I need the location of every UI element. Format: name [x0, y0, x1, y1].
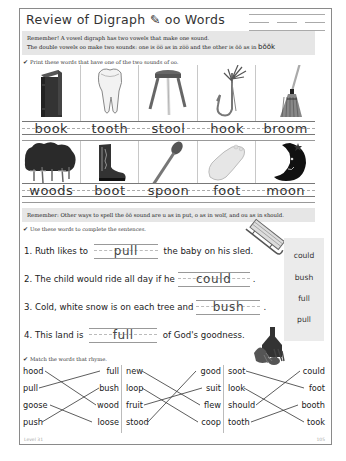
- instruction-text: Match the words that rhyme.: [30, 356, 107, 362]
- word-broom: broom: [256, 120, 315, 138]
- stool-icon: [139, 65, 197, 121]
- word-book: book: [22, 120, 81, 138]
- match-word-wood[interactable]: wood: [97, 400, 119, 410]
- check-icon: ✔: [23, 58, 28, 65]
- foot-icon: [198, 141, 256, 183]
- match-word-took[interactable]: took: [307, 417, 325, 427]
- match-word-new[interactable]: new: [126, 366, 143, 376]
- match-word-could[interactable]: could: [303, 366, 325, 376]
- match-word-flew[interactable]: flew: [204, 400, 221, 410]
- match-word-booth[interactable]: booth: [301, 400, 325, 410]
- match-word-coop[interactable]: coop: [201, 417, 221, 427]
- match-word-look[interactable]: look: [228, 383, 245, 393]
- word-bank-full: full: [284, 294, 324, 303]
- moon-icon: [256, 141, 314, 183]
- match-column-1: hood pull goose push full bush wood loos…: [20, 365, 122, 433]
- picture-cell-moon: [256, 141, 315, 183]
- remember-line-2: The double vowels oo make two sounds: on…: [27, 43, 310, 52]
- picture-row-2: [22, 141, 315, 183]
- picture-cell-foot: [198, 141, 257, 183]
- word-row-1: book tooth stool hook broom: [22, 119, 315, 139]
- picture-cell-tooth: [81, 65, 140, 121]
- match-word-bush[interactable]: bush: [99, 383, 119, 393]
- page-number: 105: [316, 437, 325, 442]
- answer-blank-1[interactable]: pull: [94, 244, 158, 259]
- word-bank-pull: pull: [284, 315, 324, 324]
- boot-icon: [81, 141, 139, 183]
- match-word-tooth[interactable]: tooth: [228, 417, 250, 427]
- word-woods: woods: [22, 182, 81, 200]
- harvest-barn-icon: [252, 325, 292, 365]
- match-word-should[interactable]: should: [228, 400, 255, 410]
- word-spoon: spoon: [139, 182, 198, 200]
- picture-cell-spoon: [139, 141, 198, 183]
- worksheet-page: Review of Digraph ✎ oo Words Remember! A…: [19, 8, 332, 445]
- word-boot: boot: [81, 182, 140, 200]
- remember-line-1: Remember! A vowel digraph has two vowels…: [27, 34, 310, 43]
- instruction-sentences: ✔Use these words to complete the sentenc…: [23, 225, 146, 232]
- sentence-3-start: 3. Cold, white snow is on each tree and: [24, 302, 193, 312]
- answer-blank-2[interactable]: could: [178, 272, 250, 287]
- name-date-lines: [249, 13, 325, 31]
- picture-cell-woods: [22, 141, 81, 183]
- answer-2: could: [178, 272, 250, 287]
- word-row-2: woods boot spoon foot moon: [22, 181, 315, 201]
- sentence-2: 2. The child would ride all day if hecou…: [24, 272, 255, 287]
- match-word-fruit[interactable]: fruit: [126, 400, 143, 410]
- answer-blank-3[interactable]: bush: [196, 300, 260, 315]
- picture-cell-boot: [81, 141, 140, 183]
- match-word-stood[interactable]: stood: [126, 417, 149, 427]
- spoon-icon: [139, 141, 197, 183]
- word-foot: foot: [198, 182, 257, 200]
- picture-cell-hook: [198, 65, 257, 121]
- match-word-soot[interactable]: soot: [228, 366, 246, 376]
- word-stool: stool: [139, 120, 198, 138]
- instruction-print: ✔Print these words that have one of the …: [23, 58, 179, 65]
- picture-cell-book: [22, 65, 81, 121]
- sentence-3-end: .: [263, 302, 266, 312]
- sentence-4-start: 4. This land is: [24, 330, 83, 340]
- word-hook: hook: [198, 120, 257, 138]
- instruction-text: Use these words to complete the sentence…: [30, 226, 146, 232]
- tooth-icon: [81, 65, 139, 121]
- match-word-goose[interactable]: goose: [23, 400, 48, 410]
- sentence-4: 4. This land is full of God's goodness.: [24, 328, 245, 343]
- example-word: bŏŏk: [258, 43, 275, 51]
- rhyme-matching: hood pull goose push full bush wood loos…: [20, 365, 331, 435]
- word-bank-bush: bush: [284, 273, 324, 282]
- answer-3: bush: [196, 300, 260, 315]
- sentence-1: 1. Ruth likes to pull the baby on his sl…: [24, 244, 253, 259]
- match-word-pull[interactable]: pull: [23, 383, 38, 393]
- sentence-4-end: of God's goodness.: [163, 330, 245, 340]
- hook-icon: [198, 65, 256, 121]
- match-word-foot[interactable]: foot: [309, 383, 325, 393]
- instruction-match: ✔Match the words that rhyme.: [23, 355, 107, 362]
- check-icon: ✔: [23, 225, 28, 232]
- match-word-hood[interactable]: hood: [23, 366, 43, 376]
- page-title: Review of Digraph ✎ oo Words: [26, 12, 225, 27]
- match-column-3: soot look should tooth could foot booth …: [224, 365, 331, 433]
- answer-4: full: [89, 328, 157, 343]
- sentence-2-start: 2. The child would ride all day if he: [24, 274, 175, 284]
- match-word-loose[interactable]: loose: [97, 417, 119, 427]
- match-word-full[interactable]: full: [106, 366, 119, 376]
- picture-cell-broom: [256, 65, 315, 121]
- word-tooth: tooth: [81, 120, 140, 138]
- word-moon: moon: [256, 182, 315, 200]
- level-label: Level 31: [24, 437, 43, 442]
- sentence-2-end: .: [253, 274, 256, 284]
- sentence-1-end: the baby on his sled.: [164, 246, 254, 256]
- picture-row-1: [22, 65, 315, 121]
- broom-icon: [256, 65, 314, 121]
- remember-line-2-text: The double vowels oo make two sounds: on…: [27, 44, 258, 50]
- match-word-push[interactable]: push: [23, 417, 43, 427]
- match-column-2: new loop fruit stood good suit flew coop: [122, 365, 224, 433]
- match-word-suit[interactable]: suit: [206, 383, 221, 393]
- match-word-loop[interactable]: loop: [126, 383, 144, 393]
- sentence-1-start: 1. Ruth likes to: [24, 246, 88, 256]
- answer-blank-4[interactable]: full: [89, 328, 157, 343]
- answer-1: pull: [94, 244, 158, 259]
- woods-icon: [22, 141, 80, 183]
- match-word-good[interactable]: good: [201, 366, 221, 376]
- word-bank-could: could: [284, 251, 324, 260]
